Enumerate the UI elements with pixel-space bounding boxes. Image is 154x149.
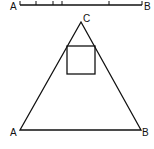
geometry-diagram: A B C A B <box>0 0 154 149</box>
triangle-label-a: A <box>10 127 17 138</box>
triangle-label-c: C <box>83 13 90 24</box>
inscribed-square <box>67 46 95 74</box>
segment-label-a: A <box>10 1 17 12</box>
segment-ab <box>20 1 142 5</box>
triangle-abc <box>20 22 141 130</box>
segment-label-b: B <box>144 1 151 12</box>
triangle-label-b: B <box>142 127 149 138</box>
